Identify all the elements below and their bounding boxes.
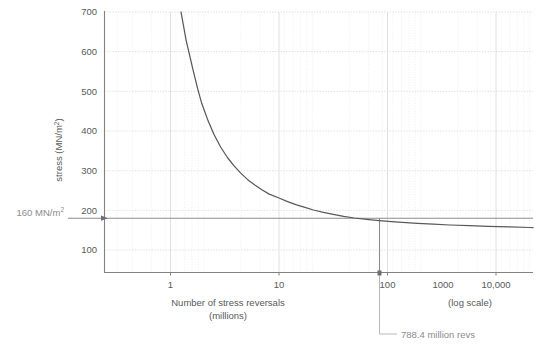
- x-tick-10: 10: [274, 279, 285, 290]
- y-tick-600: 600: [81, 46, 97, 57]
- x-tick-1000: 1000: [432, 279, 453, 290]
- y-tick-200: 200: [81, 205, 97, 216]
- y-tick-100: 100: [81, 244, 97, 255]
- y-tick-300: 300: [81, 165, 97, 176]
- design-life-callout-label: 788.4 million revs: [401, 329, 475, 340]
- y-axis-title-tail: ): [53, 118, 64, 121]
- sn-curve-chart: 700 600 500 400 300 200 100 1 10 100 100…: [0, 0, 545, 350]
- endurance-limit-label: 160 MN/m2: [17, 206, 65, 217]
- chart-figure: 700 600 500 400 300 200 100 1 10 100 100…: [0, 0, 545, 350]
- x-tick-10000: 10,000: [481, 279, 510, 290]
- x-tick-100: 100: [380, 279, 396, 290]
- x-tick-1: 1: [168, 279, 173, 290]
- y-tick-500: 500: [81, 86, 97, 97]
- y-tick-400: 400: [81, 125, 97, 136]
- y-axis-title: stress (MN/m2): [53, 118, 64, 181]
- x-axis-scale-note: (log scale): [448, 297, 492, 308]
- endurance-limit-label-sup: 2: [60, 206, 64, 213]
- svg-text:stress (MN/m2): stress (MN/m2): [53, 118, 64, 181]
- y-axis-title-text: stress (MN/m: [53, 125, 64, 182]
- x-axis-title-line1: Number of stress reversals: [171, 297, 285, 308]
- endurance-limit-label-text: 160 MN/m: [17, 207, 61, 218]
- y-tick-700: 700: [81, 6, 97, 17]
- x-axis-title-line2: (millions): [209, 310, 247, 321]
